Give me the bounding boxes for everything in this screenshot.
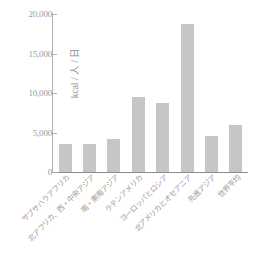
bar (229, 125, 242, 172)
bar (83, 144, 96, 172)
bar-series (53, 14, 248, 172)
bar (205, 136, 218, 172)
y-axis-tick-label: 10,000 (0, 88, 52, 98)
x-axis-labels: サブサハラアフリカ北アフリカ、西・中央アジア南・東南アジアラテンアメリカヨーロッ… (0, 173, 257, 265)
y-axis-tick-label: 20,000 (0, 9, 52, 19)
bar (107, 139, 120, 172)
bar-chart: kcal / 人 / 日 05,00010,00015,00020,000 サブ… (0, 0, 257, 265)
bar (181, 24, 194, 172)
y-axis-tick-label: 5,000 (0, 128, 52, 138)
y-axis-tick-label: 15,000 (0, 49, 52, 59)
bar (156, 103, 169, 172)
bar (59, 144, 72, 172)
bar (132, 97, 145, 172)
